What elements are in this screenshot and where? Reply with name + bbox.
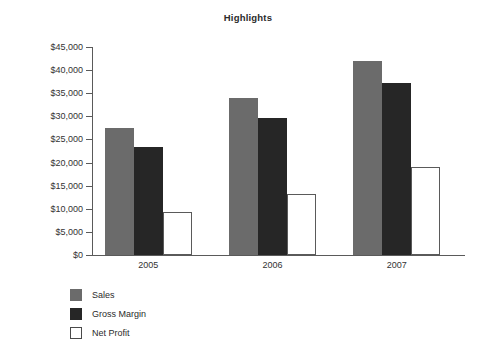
chart-title: Highlights (0, 12, 496, 23)
y-tick-label: $45,000 (50, 42, 83, 52)
y-tick-mark (86, 209, 92, 210)
bar-group (229, 47, 316, 255)
y-tick-label: $0 (73, 250, 83, 260)
y-tick-mark (86, 255, 92, 256)
legend-item-label: Gross Margin (92, 309, 146, 319)
y-tick-label: $5,000 (55, 227, 83, 237)
y-tick-mark (86, 186, 92, 187)
bar (382, 83, 411, 255)
y-tick-mark (86, 93, 92, 94)
bar (134, 147, 163, 255)
y-tick-label: $30,000 (50, 111, 83, 121)
y-tick-label: $15,000 (50, 181, 83, 191)
x-tick-label: 2007 (387, 260, 407, 270)
chart-legend: SalesGross MarginNet Profit (70, 285, 146, 342)
x-tick-label: 2005 (138, 260, 158, 270)
y-tick-mark (86, 139, 92, 140)
chart-container: Highlights $0$5,000$10,000$15,000$20,000… (0, 0, 496, 357)
legend-item-label: Net Profit (92, 328, 130, 338)
x-tick-label: 2006 (262, 260, 282, 270)
legend-swatch-icon (70, 327, 82, 339)
y-tick-label: $10,000 (50, 204, 83, 214)
plot-area: $0$5,000$10,000$15,000$20,000$25,000$30,… (92, 47, 465, 255)
y-tick-mark (86, 232, 92, 233)
legend-item[interactable]: Net Profit (70, 323, 146, 342)
y-tick-label: $35,000 (50, 88, 83, 98)
y-tick-label: $40,000 (50, 65, 83, 75)
bar (105, 128, 134, 255)
y-tick-mark (86, 70, 92, 71)
bar-group (105, 47, 192, 255)
bar (411, 167, 440, 255)
bar (258, 118, 287, 255)
bar-group (353, 47, 440, 255)
legend-swatch-icon (70, 308, 82, 320)
legend-swatch-icon (70, 289, 82, 301)
y-tick-mark (86, 116, 92, 117)
bar (287, 194, 316, 255)
y-tick-label: $25,000 (50, 134, 83, 144)
bar (163, 212, 192, 255)
x-axis-line (92, 255, 465, 256)
y-tick-mark (86, 163, 92, 164)
y-tick-label: $20,000 (50, 158, 83, 168)
bar (229, 98, 258, 255)
y-tick-mark (86, 47, 92, 48)
legend-item-label: Sales (92, 290, 115, 300)
legend-item[interactable]: Sales (70, 285, 146, 304)
legend-item[interactable]: Gross Margin (70, 304, 146, 323)
bar (353, 61, 382, 255)
y-axis-line (92, 47, 93, 256)
